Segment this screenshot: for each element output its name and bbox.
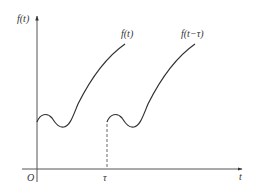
curve-label-f-t: f(t) <box>121 28 134 40</box>
time-shift-diagram: f(t) t O τ f(t) f(t−τ) <box>0 0 255 193</box>
x-axis-label: t <box>239 171 242 182</box>
origin-label: O <box>27 172 34 183</box>
tau-label: τ <box>103 172 107 183</box>
curve-f-t-minus-tau <box>107 44 195 127</box>
curve-label-f-t-minus-tau: f(t−τ) <box>181 28 204 40</box>
y-axis-label: f(t) <box>17 13 30 25</box>
curve-f-t <box>37 44 125 127</box>
